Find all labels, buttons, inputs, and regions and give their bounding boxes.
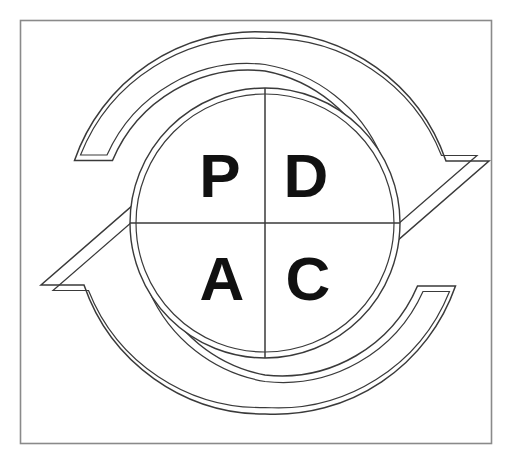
- pdca-wheel-group: P D A C: [130, 88, 400, 358]
- quadrant-letter-check: C: [286, 244, 331, 313]
- quadrant-letter-plan: P: [199, 141, 240, 210]
- pdca-diagram-canvas: P D A C: [0, 0, 512, 466]
- quadrant-letter-act: A: [200, 244, 245, 313]
- quadrant-letter-do: D: [284, 141, 329, 210]
- pdca-cycle-svg: P D A C: [0, 0, 512, 466]
